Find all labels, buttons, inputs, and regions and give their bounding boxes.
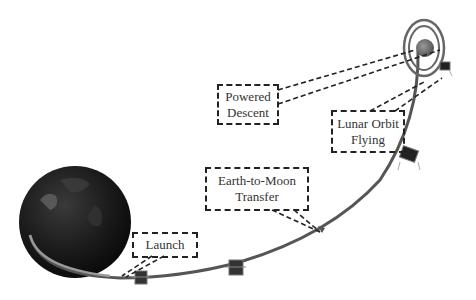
label-earth-to-moon-transfer: Earth-to-Moon Transfer bbox=[205, 167, 309, 211]
label-lunar-orbit-flying: Lunar Orbit Flying bbox=[331, 110, 405, 153]
label-launch: Launch bbox=[132, 232, 198, 258]
label-transfer-line1: Earth-to-Moon bbox=[218, 173, 296, 189]
label-powered-descent: Powered Descent bbox=[217, 84, 279, 125]
label-lunar-orbit-line2: Flying bbox=[351, 132, 385, 148]
label-lunar-orbit-line1: Lunar Orbit bbox=[337, 116, 399, 132]
label-powered-descent-line1: Powered bbox=[225, 89, 271, 105]
spacecraft-2 bbox=[226, 260, 246, 275]
moon bbox=[404, 20, 444, 76]
label-transfer-line2: Transfer bbox=[235, 189, 279, 205]
label-launch-text: Launch bbox=[146, 237, 185, 253]
earth bbox=[19, 166, 131, 278]
lander bbox=[440, 62, 452, 76]
label-powered-descent-line2: Descent bbox=[227, 105, 269, 121]
